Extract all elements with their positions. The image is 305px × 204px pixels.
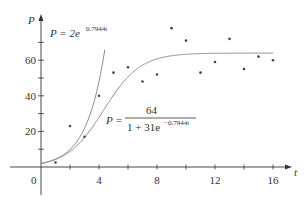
data-points: [54, 27, 274, 164]
origin-label: 0: [31, 174, 37, 186]
chart: 481216204060 P t 0 P = 2e 0.7944t P = 64…: [0, 0, 305, 204]
data-point: [69, 125, 72, 128]
svg-text:−0.7944t: −0.7944t: [164, 119, 189, 127]
x-axis-label: t: [294, 166, 298, 178]
x-axis-arrow-icon: [285, 165, 292, 170]
x-tick-label: 8: [154, 174, 160, 186]
x-tick-label: 12: [210, 174, 221, 186]
data-point: [185, 39, 188, 42]
data-point: [127, 66, 130, 69]
x-tick-label: 4: [96, 174, 102, 186]
y-tick-label: 20: [25, 125, 37, 137]
y-tick-label: 40: [25, 90, 37, 102]
data-point: [141, 80, 144, 83]
data-point: [170, 27, 173, 30]
exp-formula-label: P = 2e 0.7944t: [49, 25, 107, 39]
data-point: [199, 71, 202, 74]
data-point: [257, 55, 260, 58]
curves: [41, 50, 273, 164]
y-tick-label: 60: [25, 54, 37, 66]
svg-text:P =: P =: [105, 114, 123, 126]
data-point: [98, 95, 101, 98]
x-tick-label: 16: [268, 174, 280, 186]
exponential-curve: [41, 50, 105, 164]
svg-text:1 + 31e: 1 + 31e: [127, 121, 160, 133]
y-axis-label: P: [27, 14, 35, 26]
data-point: [112, 71, 115, 74]
data-point: [243, 68, 246, 71]
data-point: [54, 161, 57, 164]
logistic-curve: [41, 53, 273, 163]
svg-text:P = 2e: P = 2e: [49, 27, 80, 39]
data-point: [272, 59, 275, 62]
data-point: [214, 61, 217, 64]
y-axis-arrow-icon: [39, 14, 44, 21]
logistic-formula-label: P = 64 1 + 31e −0.7944t: [105, 104, 196, 133]
data-point: [228, 38, 231, 41]
data-point: [156, 73, 159, 76]
svg-text:64: 64: [146, 104, 158, 116]
svg-text:0.7944t: 0.7944t: [86, 25, 107, 33]
data-point: [83, 135, 86, 138]
